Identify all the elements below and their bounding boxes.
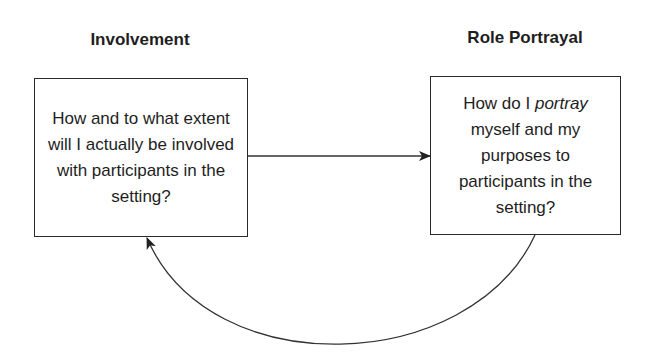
feedback-curve-arrow <box>147 235 535 344</box>
connectors <box>0 0 651 363</box>
